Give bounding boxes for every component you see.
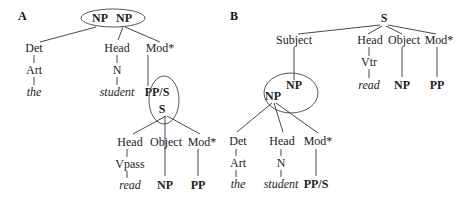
pp-node: PP [191, 178, 206, 192]
panel-b-label: B [230, 9, 238, 23]
sub-mod-node: Mod* [188, 135, 217, 149]
the-word: the [231, 177, 246, 191]
edge-s-mod [167, 116, 200, 134]
pps-node: PP/S [145, 85, 170, 99]
head-node: Head [104, 41, 129, 55]
panel-b: B S Subject Head Vtr read Object NP Mod*… [229, 9, 453, 191]
root-s-node: S [381, 11, 388, 25]
root-np-left: NP [92, 11, 108, 25]
root-np-ellipse [81, 9, 145, 27]
student-word: student [264, 177, 299, 191]
object-node: Object [388, 33, 421, 47]
parse-tree-diagram: A NP NP Det Art the Head N student Mod* … [0, 0, 468, 204]
n-node: N [277, 156, 286, 170]
mod-node: Mod* [146, 41, 175, 55]
panel-a-label: A [18, 9, 27, 23]
vtr-node: Vtr [361, 55, 377, 69]
edge-np-det [237, 103, 272, 132]
edge-root-mod [125, 27, 160, 42]
det-node: Det [25, 41, 43, 55]
edge-root-head [118, 27, 123, 40]
edge-root-det [40, 27, 96, 42]
np-lower-node: NP [265, 89, 281, 103]
pp-node: PP [430, 78, 445, 92]
mod-node: Mod* [425, 33, 454, 47]
sub-head-node: Head [269, 134, 294, 148]
subject-node: Subject [276, 33, 313, 47]
object-node: Object [150, 135, 183, 149]
edge-s-head [133, 116, 166, 134]
head-node: Head [357, 33, 382, 47]
the-word: the [27, 85, 42, 99]
read-word: read [119, 178, 142, 192]
read-word: read [358, 78, 381, 92]
vpass-node: Vpass [115, 157, 145, 171]
panel-a: A NP NP Det Art the Head N student Mod* … [18, 9, 216, 192]
s-node: S [159, 102, 166, 116]
sub-head-node: Head [117, 135, 142, 149]
pps-node: PP/S [304, 177, 329, 191]
det-node: Det [229, 134, 247, 148]
sub-mod-node: Mod* [304, 134, 333, 148]
np-upper-node: NP [286, 78, 302, 92]
art-node: Art [26, 63, 43, 77]
art-node: Art [230, 156, 247, 170]
object-np-node: NP [157, 178, 173, 192]
root-np-right: NP [116, 11, 132, 25]
student-word: student [100, 85, 135, 99]
n-node: N [113, 63, 122, 77]
object-np-node: NP [394, 78, 410, 92]
